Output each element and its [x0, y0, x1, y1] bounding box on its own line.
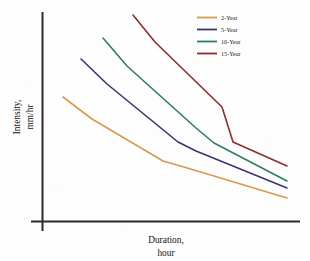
series-line-15-year: [133, 15, 287, 166]
chart-screenshot: 2-Year 5-Year 10-Year 15-Year Duration, …: [0, 0, 310, 261]
legend-item-10-year: 10-Year: [197, 38, 241, 45]
x-axis-title: Duration, hour: [148, 235, 184, 258]
series-line-5-year: [81, 59, 287, 188]
y-axis-title-line2: mm/hr: [25, 104, 35, 130]
series-line-10-year: [103, 38, 287, 181]
idf-curve-chart: 2-Year 5-Year 10-Year 15-Year Duration, …: [0, 0, 310, 261]
series-line-2-year: [63, 97, 287, 198]
legend-item-15-year: 15-Year: [197, 50, 241, 57]
chart-legend: 2-Year 5-Year 10-Year 15-Year: [197, 14, 241, 57]
legend-item-2-year: 2-Year: [197, 14, 238, 21]
y-axis-title-line1: Intensity,: [12, 100, 22, 135]
y-axis-title: Intensity, mm/hr: [12, 100, 35, 135]
legend-label-5-year: 5-Year: [221, 26, 238, 33]
legend-item-5-year: 5-Year: [197, 26, 238, 33]
legend-label-15-year: 15-Year: [221, 50, 241, 57]
legend-label-2-year: 2-Year: [221, 14, 238, 21]
legend-label-10-year: 10-Year: [221, 38, 241, 45]
x-axis-title-line2: hour: [157, 248, 175, 258]
x-axis-title-line1: Duration,: [148, 235, 184, 245]
